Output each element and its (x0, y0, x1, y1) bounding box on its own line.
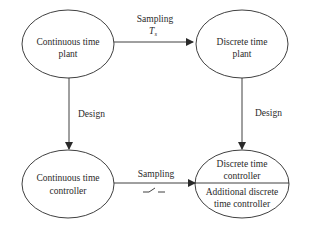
discrete-time-controller-node: Discrete time controller Additional disc… (195, 150, 289, 218)
control-design-diagram: Continuous time plant Discrete time plan… (0, 0, 315, 227)
additional-controller-line1: Additional discrete (206, 187, 279, 197)
sampling-period-symbol: Ts (149, 26, 157, 37)
discrete-time-plant-node: Discrete time plant (196, 10, 288, 78)
continuous-time-plant-node: Continuous time plant (22, 10, 114, 78)
continuous-plant-line2: plant (59, 49, 78, 59)
continuous-controller-line1: Continuous time (36, 173, 99, 183)
continuous-controller-line2: controller (50, 186, 88, 196)
right-design-edge: Design (242, 78, 282, 149)
discrete-plant-line2: plant (233, 49, 252, 59)
bottom-sampling-label: Sampling (138, 169, 175, 179)
continuous-time-controller-node: Continuous time controller (22, 150, 114, 218)
top-sampling-edge: Sampling Ts (114, 14, 193, 42)
discrete-controller-upper-line1: Discrete time (217, 159, 268, 169)
additional-controller-line2: time controller (214, 199, 271, 209)
discrete-plant-line1: Discrete time (217, 37, 268, 47)
right-design-label: Design (255, 108, 282, 118)
top-sampling-label: Sampling (137, 14, 174, 24)
left-design-edge: Design (69, 78, 105, 149)
bottom-sampling-edge: Sampling (114, 169, 195, 192)
continuous-plant-line1: Continuous time (36, 37, 99, 47)
sampling-switch-icon (143, 188, 165, 192)
left-design-label: Design (78, 109, 105, 119)
discrete-controller-upper-line2: controller (224, 171, 262, 181)
